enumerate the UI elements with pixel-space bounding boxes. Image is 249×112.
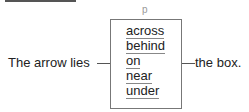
sentence-start: The arrow lies bbox=[8, 56, 90, 70]
option-under: under bbox=[126, 84, 165, 99]
slot-label: p bbox=[142, 4, 148, 15]
option-label: across bbox=[126, 24, 164, 39]
option-label: near bbox=[126, 69, 152, 84]
option-label: behind bbox=[126, 39, 165, 54]
sentence-end: the box. bbox=[195, 56, 241, 70]
option-label: under bbox=[126, 84, 159, 99]
option-near: near bbox=[126, 69, 165, 84]
options-box: across behind on near under bbox=[110, 19, 182, 109]
option-label: on bbox=[126, 54, 140, 69]
heading-underline bbox=[5, 0, 76, 2]
right-connector-line bbox=[182, 63, 195, 64]
option-on: on bbox=[126, 54, 165, 69]
left-connector-line bbox=[97, 63, 110, 64]
options-list: across behind on near under bbox=[126, 24, 165, 99]
option-behind: behind bbox=[126, 39, 165, 54]
option-across: across bbox=[126, 24, 165, 39]
